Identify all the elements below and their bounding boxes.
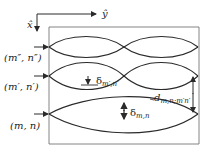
mode-m2-label: (m″, n″) <box>4 52 42 63</box>
separation-subscript: m,n;m′n′ <box>160 97 190 105</box>
delta-mn-prime-annotation: δm′,n′ <box>81 75 119 88</box>
mode-m0-label: (m, n) <box>10 120 40 131</box>
delta-mn-prime-label: δm′,n′ <box>96 75 119 88</box>
mode-m2: (m″, n″) <box>4 37 198 64</box>
delta-mn-label: δm,n <box>130 107 150 120</box>
delta-mn-annotation: δm,n <box>124 103 150 120</box>
y-axis-label: ŷ <box>101 8 108 19</box>
separation-label: dm,n;m′n′ <box>154 92 191 105</box>
separation-annotation: dm,n;m′n′ <box>150 77 193 112</box>
mode-m1-curve-lower <box>49 63 198 90</box>
delta-mn-prime-subscript: m′,n′ <box>102 80 119 88</box>
axes: ŷ x̂ <box>27 8 108 31</box>
waveguide-frame <box>49 27 199 144</box>
mode-m1-label: (m′, n′) <box>4 81 39 92</box>
mode-diagram: ŷ x̂ (m″, n″) (m′, n′) (m, n) δm′,n′ <box>0 0 214 151</box>
mode-m2-curve-lower <box>49 37 198 58</box>
delta-mn-subscript: m,n <box>136 112 150 120</box>
x-axis-label: x̂ <box>27 19 33 30</box>
